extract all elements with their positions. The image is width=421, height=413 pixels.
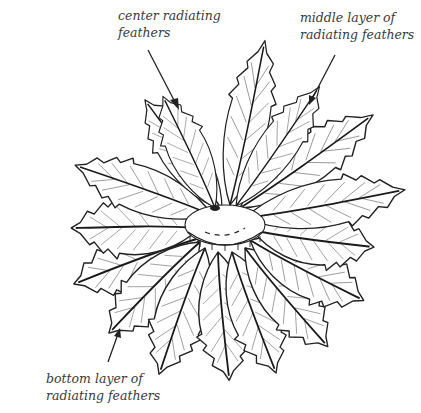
middle-arrow xyxy=(309,55,335,105)
middle-label-line1: middle layer of xyxy=(300,9,414,26)
center-label-line2: feathers xyxy=(118,24,221,41)
bottom-label-line2: radiating feathers xyxy=(46,387,160,404)
bottom-label-line1: bottom layer of xyxy=(46,370,160,387)
middle-layer-label: middle layer of radiating feathers xyxy=(300,9,414,43)
center-radiating-feathers-label: center radiating feathers xyxy=(118,7,221,41)
center-label-line1: center radiating xyxy=(118,7,221,24)
feather-rosette-drawing xyxy=(0,0,421,413)
diagram-canvas: center radiating feathers middle layer o… xyxy=(0,0,421,413)
bottom-layer-label: bottom layer of radiating feathers xyxy=(46,370,160,404)
middle-label-line2: radiating feathers xyxy=(300,26,414,43)
